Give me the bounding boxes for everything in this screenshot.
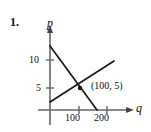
figure-container: 1. p q 10 5 100 200 (100, 5) — [0, 0, 151, 132]
y-axis-label: p — [47, 16, 53, 31]
x-axis-arrow-icon — [126, 107, 134, 113]
y-tick-label-10: 10 — [29, 54, 39, 65]
x-tick-label-100: 100 — [65, 112, 80, 123]
equilibrium-point-marker — [78, 86, 82, 90]
equilibrium-point-label: (100, 5) — [91, 80, 123, 91]
y-tick-label-5: 5 — [36, 82, 41, 93]
x-axis-label: q — [136, 101, 142, 116]
demand-curve-line — [50, 46, 97, 110]
x-tick-label-200: 200 — [94, 112, 109, 123]
